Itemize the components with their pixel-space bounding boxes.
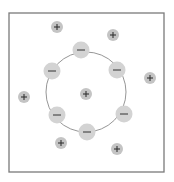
anion-ion: − [73,42,90,59]
ion-diagram: −−−−−− +++++++ [0,0,174,182]
cation-ion: + [18,91,30,103]
anion-ion: − [49,107,66,124]
anion-ion: − [109,62,126,79]
cation-ion: + [51,21,63,33]
cation-ion: + [144,72,156,84]
cation-ion: + [111,143,123,155]
cation-ion: + [80,88,92,100]
cation-ion: + [55,137,67,149]
anion-ion: − [44,63,61,80]
cation-ion: + [107,29,119,41]
anion-ion: − [116,106,133,123]
anion-ion: − [79,124,96,141]
